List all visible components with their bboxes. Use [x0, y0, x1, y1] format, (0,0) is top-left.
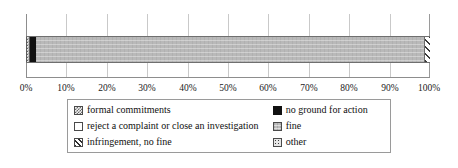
chart-legend: formal commitments no ground for action … — [67, 99, 391, 153]
x-axis-tick-labels: 0% 10% 20% 30% 40% 50% 60% 70% 80% 90% 1… — [0, 82, 458, 98]
solid-black-swatch-icon — [273, 106, 282, 115]
open-swatch-icon — [74, 122, 83, 131]
diagonal-hatch-swatch-icon — [74, 138, 83, 147]
legend-item-label: other — [286, 136, 307, 148]
x-tick-label-0: 0% — [20, 82, 33, 95]
x-tick-label-60: 60% — [259, 82, 276, 95]
legend-item-formal-commitments[interactable]: formal commitments — [74, 104, 273, 116]
dotted-swatch-icon — [273, 138, 282, 147]
x-tick-label-80: 80% — [340, 82, 357, 95]
x-tick-label-90: 90% — [381, 82, 398, 95]
legend-item-infringement-no-fine[interactable]: infringement, no fine — [74, 136, 273, 148]
legend-item-label: formal commitments — [87, 104, 171, 116]
legend-item-label: fine — [286, 120, 302, 132]
x-tick-label-50: 50% — [219, 82, 236, 95]
gray-fill-swatch-icon — [273, 122, 282, 131]
legend-item-label: infringement, no fine — [87, 136, 172, 148]
legend-item-fine[interactable]: fine — [273, 120, 384, 132]
x-tick-label-30: 30% — [138, 82, 155, 95]
legend-row: formal commitments no ground for action — [74, 104, 384, 120]
axis-baseline — [26, 77, 430, 78]
x-tick-label-10: 10% — [57, 82, 74, 95]
legend-item-label: reject a complaint or close an investiga… — [87, 120, 259, 132]
checker-swatch-icon — [74, 106, 83, 115]
legend-item-reject-a-complaint[interactable]: reject a complaint or close an investiga… — [74, 120, 273, 132]
legend-row: infringement, no fine other — [74, 136, 384, 152]
x-tick-label-100: 100% — [418, 82, 440, 95]
legend-item-other[interactable]: other — [273, 136, 384, 148]
bar-segment-fine — [36, 37, 424, 62]
bar-segment-other — [424, 37, 430, 62]
stacked-bar — [26, 36, 430, 63]
stacked-bar-chart: 0% 10% 20% 30% 40% 50% 60% 70% 80% 90% 1… — [0, 0, 458, 168]
x-tick-label-40: 40% — [179, 82, 196, 95]
x-tick-label-20: 20% — [98, 82, 115, 95]
legend-item-no-ground-for-action[interactable]: no ground for action — [273, 104, 384, 116]
x-tick-label-70: 70% — [300, 82, 317, 95]
legend-item-label: no ground for action — [286, 104, 368, 116]
legend-row: reject a complaint or close an investiga… — [74, 120, 384, 136]
